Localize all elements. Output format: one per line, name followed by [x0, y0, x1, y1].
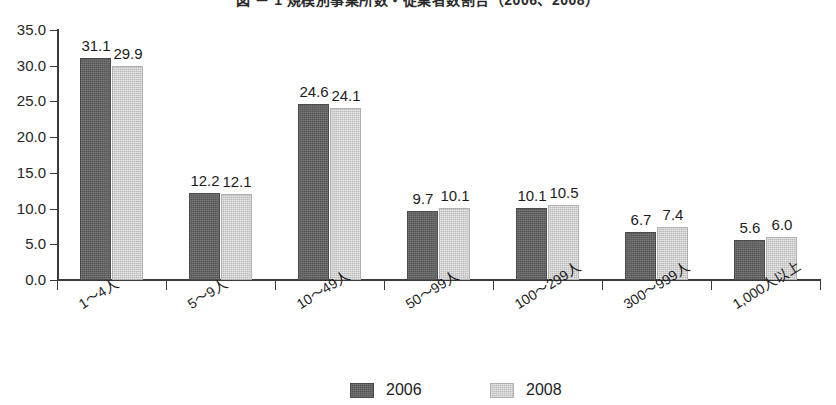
- bar-group: 24.624.1: [298, 30, 361, 280]
- bar-value-label: 10.1: [432, 187, 478, 204]
- bar-2006-10〜49人[interactable]: [298, 104, 329, 280]
- bar-2008-5〜9人[interactable]: [221, 194, 252, 280]
- y-axis-tick: [50, 30, 57, 31]
- y-axis-tick-label: 10.0: [0, 200, 46, 217]
- bar-chart: 図 － 1 規模別事業所数・従業者数割合（2006、2008） 0.05.010…: [0, 0, 836, 405]
- bar-value-label: 7.4: [650, 206, 696, 223]
- bar-2006-300〜999人[interactable]: [625, 232, 656, 280]
- y-axis-tick-label: 30.0: [0, 57, 46, 74]
- bar-group: 9.710.1: [407, 30, 470, 280]
- y-axis-tick-label: 0.0: [0, 271, 46, 288]
- bar-2006-1〜4人[interactable]: [80, 58, 111, 280]
- y-axis-tick-label: 25.0: [0, 92, 46, 109]
- bar-group: 10.110.5: [516, 30, 579, 280]
- chart-title: 図 － 1 規模別事業所数・従業者数割合（2006、2008）: [0, 0, 836, 9]
- bar-value-label: 6.0: [759, 216, 805, 233]
- y-axis-tick: [50, 209, 57, 210]
- light-gray-swatch: [490, 383, 514, 398]
- bar-2008-1〜4人[interactable]: [112, 66, 143, 280]
- dark-gray-swatch: [350, 383, 374, 398]
- y-axis-tick-label: 15.0: [0, 164, 46, 181]
- bar-value-label: 24.1: [323, 87, 369, 104]
- y-axis-tick-label: 5.0: [0, 235, 46, 252]
- bar-2006-100〜299人[interactable]: [516, 208, 547, 280]
- y-axis-tick: [50, 137, 57, 138]
- x-axis-tick: [57, 281, 58, 290]
- bar-2006-50〜99人[interactable]: [407, 211, 438, 280]
- bar-value-label: 29.9: [105, 45, 151, 62]
- x-axis-tick: [275, 281, 276, 290]
- x-axis-tick: [602, 281, 603, 290]
- plot-area: 31.129.912.212.124.624.19.710.110.110.56…: [57, 30, 820, 280]
- legend-label: 2008: [526, 381, 562, 399]
- x-axis-tick: [493, 281, 494, 290]
- chart-legend: 20062008: [0, 381, 836, 403]
- y-axis-tick: [50, 280, 57, 281]
- y-axis-tick-label: 35.0: [0, 21, 46, 38]
- y-axis-tick: [50, 173, 57, 174]
- bar-group: 12.212.1: [189, 30, 252, 280]
- bar-2006-1,000人以上[interactable]: [734, 240, 765, 280]
- y-axis-tick: [50, 101, 57, 102]
- x-axis-tick: [820, 281, 821, 290]
- bar-2008-10〜49人[interactable]: [330, 108, 361, 280]
- bar-group: 5.66.0: [734, 30, 797, 280]
- y-axis-tick: [50, 66, 57, 67]
- bar-value-label: 12.1: [214, 173, 260, 190]
- x-axis-tick: [166, 281, 167, 290]
- bar-2006-5〜9人[interactable]: [189, 193, 220, 280]
- x-axis-tick: [711, 281, 712, 290]
- bar-group: 6.77.4: [625, 30, 688, 280]
- x-axis-tick: [384, 281, 385, 290]
- bar-value-label: 10.5: [541, 184, 587, 201]
- y-axis-tick-label: 20.0: [0, 128, 46, 145]
- bar-group: 31.129.9: [80, 30, 143, 280]
- legend-label: 2006: [386, 381, 422, 399]
- y-axis-tick: [50, 244, 57, 245]
